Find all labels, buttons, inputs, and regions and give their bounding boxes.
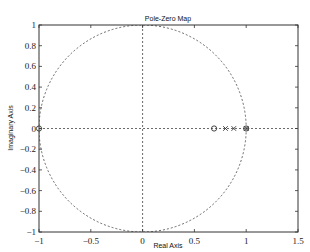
x-tick-label: 0.5 [189, 236, 201, 246]
y-axis-label: Imaginary Axis [7, 105, 15, 151]
x-axis-label: Real Axis [153, 242, 183, 249]
y-tick-label: 1 [32, 20, 37, 30]
x-axis-ticks: −1−0.500.511.5 [34, 25, 304, 246]
y-tick-label: −1 [26, 227, 36, 237]
x-tick-label: −1 [34, 236, 44, 246]
x-tick-label: 1.5 [292, 236, 304, 246]
plot-area [36, 25, 298, 232]
chart-title: Pole-Zero Map [145, 15, 191, 23]
plot-content [39, 25, 298, 232]
x-tick-label: 0 [140, 236, 145, 246]
y-tick-label: 0.6 [25, 61, 37, 71]
x-tick-label: −0.5 [83, 236, 100, 246]
y-tick-label: 0.4 [25, 82, 37, 92]
y-tick-label: 0.2 [25, 103, 36, 113]
y-tick-label: 0.8 [25, 41, 37, 51]
y-tick-label: 0 [32, 124, 37, 134]
y-tick-label: −0.4 [20, 165, 37, 175]
y-tick-label: −0.8 [20, 206, 37, 216]
pole-zero-map-figure: Pole-Zero Map −1−0.500.511.5 −1−0.8−0.6−… [0, 0, 310, 252]
y-tick-label: −0.6 [20, 186, 37, 196]
x-tick-label: 1 [244, 236, 249, 246]
y-tick-label: −0.2 [20, 144, 36, 154]
